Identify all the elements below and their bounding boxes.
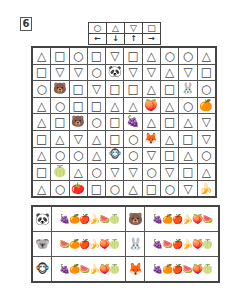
grid-cell[interactable]: △ — [106, 97, 124, 114]
grid-cell[interactable]: △ — [197, 47, 216, 64]
grid-cell[interactable]: △ — [161, 64, 179, 81]
grid-cell[interactable]: △ — [32, 180, 51, 197]
grid-cell[interactable]: △ — [87, 147, 105, 164]
grid-cell[interactable]: □ — [32, 164, 51, 181]
grid-cell[interactable]: ▽ — [69, 130, 87, 147]
grid-cell[interactable]: □ — [106, 114, 124, 131]
grid-cell[interactable]: ○ — [142, 164, 160, 181]
grid-cell[interactable]: △ — [161, 97, 179, 114]
grid-cell[interactable]: 🐻 — [51, 81, 69, 98]
answer-fruits[interactable]: 🍇🍉🍎🍌🍑🍈 — [145, 232, 220, 257]
grid-cell[interactable]: ▽ — [51, 64, 69, 81]
answer-fruits[interactable]: 🍉🍊🍎🍌🍑🍈 — [52, 232, 126, 257]
grid-cell[interactable]: □ — [69, 81, 87, 98]
grid-cell[interactable]: □ — [179, 130, 197, 147]
grid-cell[interactable]: ▽ — [106, 47, 124, 64]
grid-cell[interactable]: 🍑 — [142, 97, 160, 114]
grid-cell[interactable]: △ — [142, 114, 160, 131]
grid-cell[interactable]: ○ — [106, 180, 124, 197]
grid-cell[interactable]: □ — [197, 64, 216, 81]
grid-cell[interactable]: ▽ — [197, 114, 216, 131]
grid-cell[interactable]: 🐻 — [69, 114, 87, 131]
grid-cell[interactable]: □ — [161, 81, 179, 98]
grid-cell[interactable]: ▽ — [124, 164, 142, 181]
grid-cell[interactable]: 🍊 — [197, 97, 216, 114]
grid-cell[interactable]: □ — [106, 130, 124, 147]
grid-cell[interactable]: □ — [69, 97, 87, 114]
grid-cell[interactable]: ○ — [51, 147, 69, 164]
grid-cell[interactable]: □ — [87, 47, 105, 64]
grid-cell[interactable]: □ — [51, 47, 69, 64]
grid-cell[interactable]: ▽ — [106, 164, 124, 181]
grid-cell[interactable]: □ — [142, 180, 160, 197]
answer-animal[interactable]: 🐰 — [126, 232, 145, 257]
grid-cell[interactable]: ○ — [179, 97, 197, 114]
grid-cell[interactable]: △ — [142, 81, 160, 98]
grid-cell[interactable]: ○ — [32, 81, 51, 98]
grid-cell[interactable]: ▽ — [142, 147, 160, 164]
answer-fruits[interactable]: 🍇🍊🍉🍌🍑🍈 — [52, 257, 126, 283]
grid-cell[interactable]: □ — [124, 47, 142, 64]
grid-cell[interactable]: □ — [51, 114, 69, 131]
answer-animal[interactable]: 🐨 — [32, 232, 52, 257]
answer-animal[interactable]: 🐻 — [126, 206, 145, 232]
grid-cell[interactable]: ▽ — [142, 64, 160, 81]
grid-cell[interactable]: 🍅 — [69, 180, 87, 197]
grid-cell[interactable]: ▽ — [179, 180, 197, 197]
grid-cell[interactable]: ▽ — [124, 64, 142, 81]
grid-cell[interactable]: 🍌 — [197, 180, 216, 197]
grid-cell[interactable]: △ — [32, 147, 51, 164]
grid-cell[interactable]: △ — [124, 180, 142, 197]
grid-cell[interactable]: △ — [179, 147, 197, 164]
grid-cell[interactable]: △ — [87, 130, 105, 147]
grid-cell[interactable]: △ — [161, 130, 179, 147]
grid-cell[interactable]: ▽ — [161, 164, 179, 181]
grid-cell[interactable]: ○ — [161, 47, 179, 64]
grid-cell[interactable]: 🐼 — [106, 64, 124, 81]
grid-cell[interactable]: △ — [197, 164, 216, 181]
grid-cell[interactable]: ▽ — [197, 130, 216, 147]
grid-cell[interactable]: △ — [69, 164, 87, 181]
grid-cell[interactable]: ○ — [51, 97, 69, 114]
grid-cell[interactable]: □ — [32, 130, 51, 147]
grid-cell[interactable]: △ — [32, 97, 51, 114]
grid-cell[interactable]: ○ — [69, 47, 87, 64]
grid-cell[interactable]: □ — [161, 147, 179, 164]
grid-cell[interactable]: 🍇 — [124, 114, 142, 131]
grid-cell[interactable]: □ — [161, 114, 179, 131]
grid-cell[interactable]: △ — [32, 114, 51, 131]
grid-cell[interactable]: ○ — [69, 147, 87, 164]
grid-cell[interactable]: □ — [106, 81, 124, 98]
answer-animal[interactable]: 🐵 — [32, 257, 52, 283]
grid-cell[interactable]: ○ — [197, 81, 216, 98]
grid-cell[interactable]: □ — [179, 164, 197, 181]
grid-cell[interactable]: □ — [87, 180, 105, 197]
grid-cell[interactable]: 🐵 — [106, 147, 124, 164]
grid-cell[interactable]: ○ — [197, 147, 216, 164]
grid-cell[interactable]: ○ — [87, 164, 105, 181]
grid-cell[interactable]: △ — [32, 47, 51, 64]
grid-cell[interactable]: ○ — [124, 130, 142, 147]
grid-cell[interactable]: ○ — [179, 47, 197, 64]
grid-cell[interactable]: 🍈 — [51, 164, 69, 181]
grid-cell[interactable]: ○ — [51, 180, 69, 197]
grid-cell[interactable]: △ — [142, 47, 160, 64]
grid-cell[interactable]: ▽ — [179, 64, 197, 81]
answer-fruits[interactable]: 🍇🍊🍎🍉🍑🍈 — [145, 257, 220, 283]
grid-cell[interactable]: △ — [124, 97, 142, 114]
grid-cell[interactable]: 🦊 — [142, 130, 160, 147]
grid-cell[interactable]: ▽ — [87, 81, 105, 98]
grid-cell[interactable]: ○ — [87, 114, 105, 131]
answer-animal[interactable]: 🐼 — [32, 206, 52, 232]
answer-fruits[interactable]: 🍇🍊🍎🍌🍉🍈 — [52, 206, 126, 232]
grid-cell[interactable]: 🐰 — [179, 81, 197, 98]
grid-cell[interactable]: ○ — [161, 180, 179, 197]
grid-cell[interactable]: □ — [124, 81, 142, 98]
grid-cell[interactable]: ▽ — [69, 64, 87, 81]
grid-cell[interactable]: △ — [51, 130, 69, 147]
grid-cell[interactable]: ○ — [124, 147, 142, 164]
answer-fruits[interactable]: 🍇🍊🍎🍌🍑🍉 — [145, 206, 220, 232]
grid-cell[interactable]: ○ — [87, 64, 105, 81]
grid-cell[interactable]: △ — [179, 114, 197, 131]
answer-animal[interactable]: 🦊 — [126, 257, 145, 283]
